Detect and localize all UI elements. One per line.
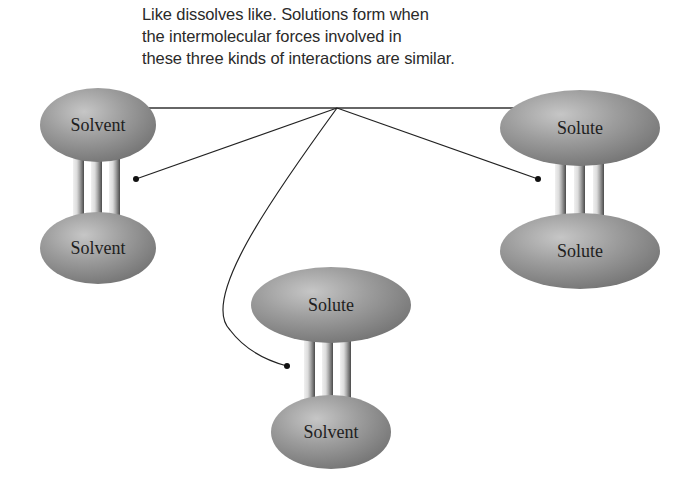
label-solvent-bottom: Solvent — [70, 238, 125, 258]
label-solute-bottom: Solute — [557, 241, 603, 261]
diagram-canvas: Like dissolves like. Solutions form when… — [0, 0, 693, 483]
interaction-solvent-solvent: Solvent Solvent — [40, 88, 156, 284]
interaction-solute-solvent: Solute Solvent — [251, 267, 411, 469]
label-solute-top: Solute — [557, 118, 603, 138]
label-solvent-top: Solvent — [70, 115, 125, 135]
diagram-svg: Solvent Solvent Solute Solute — [0, 0, 693, 483]
pointer-dot — [535, 176, 541, 182]
interaction-solute-solute: Solute Solute — [500, 90, 660, 289]
pointer-dot — [284, 363, 290, 369]
label-solute: Solute — [308, 295, 354, 315]
label-solvent: Solvent — [303, 422, 358, 442]
pointer-dot — [133, 176, 139, 182]
leader-line-solvent-solvent — [136, 108, 337, 179]
